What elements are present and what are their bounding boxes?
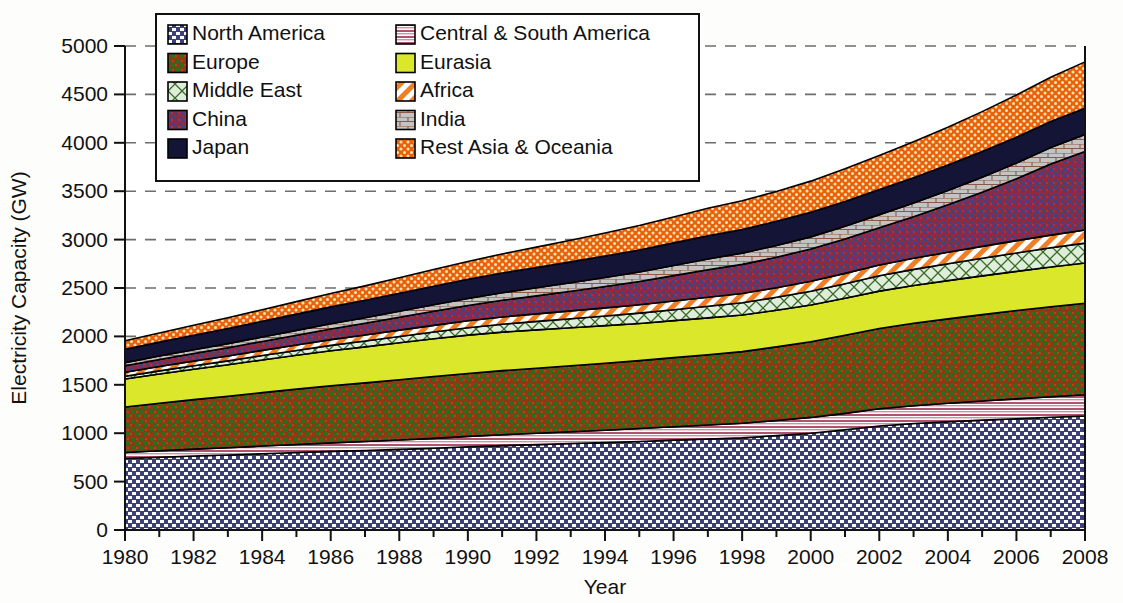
legend-label-india: India: [420, 107, 466, 130]
x-tick-label: 1984: [239, 545, 286, 568]
y-tick-label: 2000: [61, 324, 108, 347]
legend-label-rest-asia-oceania: Rest Asia & Oceania: [420, 135, 613, 158]
x-tick-label: 1998: [719, 545, 766, 568]
legend-swatch-india: [396, 111, 415, 130]
y-tick-label: 1500: [61, 373, 108, 396]
legend-label-north-america: North America: [192, 21, 325, 44]
legend-swatch-middle-east: [168, 82, 187, 101]
x-tick-label: 2000: [787, 545, 834, 568]
x-tick-label: 1980: [102, 545, 149, 568]
legend-swatch-europe: [168, 54, 187, 73]
legend-swatch-eurasia: [396, 54, 415, 73]
stacked-area-chart: 0500100015002000250030003500400045005000…: [0, 0, 1123, 603]
y-axis: 0500100015002000250030003500400045005000: [61, 34, 125, 541]
legend-swatch-north-america: [168, 25, 187, 44]
legend-label-central-south-america: Central & South America: [420, 21, 650, 44]
legend-swatch-rest-asia-oceania: [396, 139, 415, 158]
y-tick-label: 5000: [61, 34, 108, 57]
chart-legend: North AmericaCentral & South AmericaEuro…: [156, 14, 699, 181]
y-tick-label: 1000: [61, 421, 108, 444]
x-tick-label: 2008: [1062, 545, 1109, 568]
y-tick-label: 2500: [61, 276, 108, 299]
x-tick-label: 2006: [993, 545, 1040, 568]
x-tick-label: 1986: [307, 545, 354, 568]
x-tick-label: 1994: [582, 545, 629, 568]
y-tick-label: 0: [96, 518, 108, 541]
legend-swatch-china: [168, 111, 187, 130]
legend-swatch-central-south-america: [396, 25, 415, 44]
x-tick-label: 2002: [856, 545, 903, 568]
y-tick-label: 4000: [61, 131, 108, 154]
x-tick-label: 1990: [444, 545, 491, 568]
legend-label-china: China: [192, 107, 247, 130]
y-axis-title: Electricity Capacity (GW): [7, 171, 30, 404]
x-axis-title: Year: [584, 575, 626, 598]
x-tick-label: 1982: [170, 545, 217, 568]
legend-swatch-africa: [396, 82, 415, 101]
x-tick-label: 2004: [924, 545, 971, 568]
legend-label-middle-east: Middle East: [192, 78, 302, 101]
chart-stage: 0500100015002000250030003500400045005000…: [0, 0, 1123, 603]
x-axis: 1980198219841986198819901992199419961998…: [102, 530, 1109, 568]
legend-label-africa: Africa: [420, 78, 474, 101]
legend-label-europe: Europe: [192, 50, 260, 73]
legend-label-eurasia: Eurasia: [420, 50, 492, 73]
legend-swatch-japan: [168, 139, 187, 158]
y-tick-label: 3000: [61, 228, 108, 251]
x-tick-label: 1988: [376, 545, 423, 568]
y-tick-label: 500: [73, 470, 108, 493]
y-tick-label: 4500: [61, 82, 108, 105]
legend-label-japan: Japan: [192, 135, 249, 158]
x-tick-label: 1992: [513, 545, 560, 568]
y-tick-label: 3500: [61, 179, 108, 202]
x-tick-label: 1996: [650, 545, 697, 568]
